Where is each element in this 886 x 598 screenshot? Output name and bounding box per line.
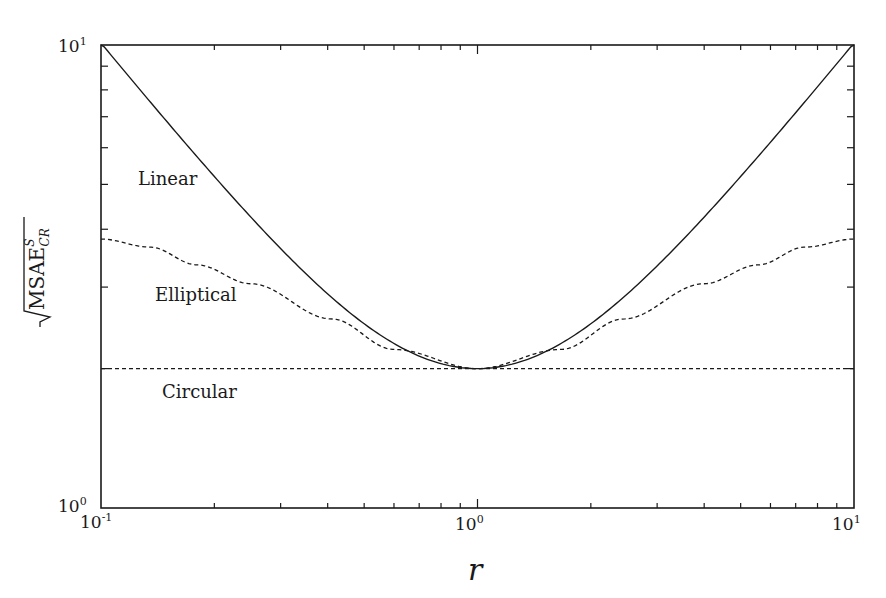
elliptical-label: Elliptical — [155, 284, 237, 305]
y-axis-label: MSAESCR — [23, 217, 52, 327]
linear-curve — [101, 45, 854, 369]
circular-label: Circular — [162, 381, 237, 402]
x-tick-label-mid: 100 — [455, 513, 484, 534]
y-tick-label-top: 101 — [58, 35, 87, 56]
x-axis-label: r — [468, 552, 484, 587]
axis-ticks — [101, 45, 854, 508]
x-tick-label-left: 10-1 — [80, 511, 112, 532]
x-tick-label-right: 101 — [832, 513, 861, 534]
curves — [101, 45, 854, 369]
plot-frame — [101, 45, 854, 508]
plot-border — [101, 45, 854, 508]
svg-text:MSAESCR: MSAESCR — [23, 228, 52, 310]
linear-label: Linear — [138, 168, 198, 189]
chart: 101 100 10-1 100 101 Linear Elliptical C… — [0, 0, 886, 598]
